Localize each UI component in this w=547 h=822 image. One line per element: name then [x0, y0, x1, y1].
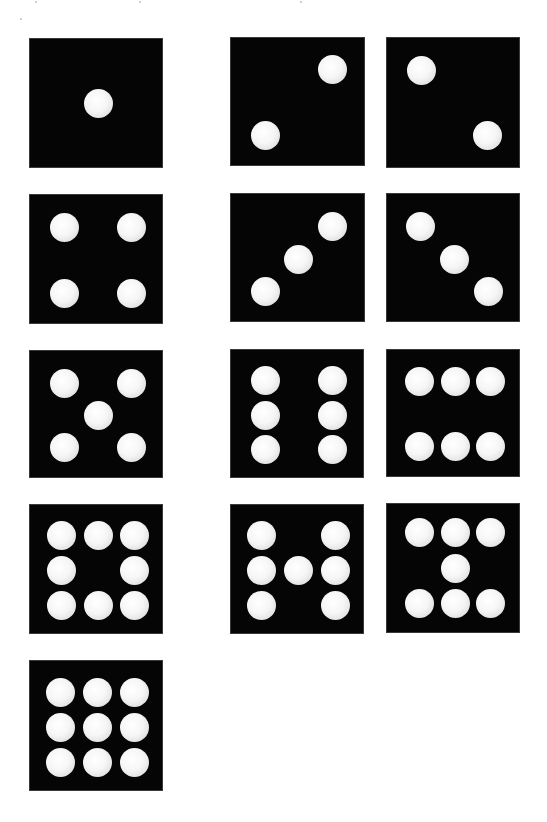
- pip-icon: [405, 518, 434, 547]
- die-face-5-quincunx: [29, 350, 163, 478]
- pip-icon: [476, 367, 505, 396]
- pip-icon: [50, 433, 79, 462]
- pip-icon: [473, 121, 502, 150]
- die-face-2-diagonal-rising: [230, 37, 365, 166]
- pip-icon: [476, 518, 505, 547]
- pip-icon: [321, 591, 350, 620]
- pip-icon: [84, 521, 113, 550]
- pip-icon: [50, 213, 79, 242]
- pip-icon: [476, 589, 505, 618]
- pip-icon: [440, 245, 469, 274]
- pip-icon: [405, 589, 434, 618]
- die-face-7-H-shape: [230, 504, 364, 634]
- pip-icon: [318, 401, 347, 430]
- pip-icon: [120, 556, 149, 585]
- pip-icon: [50, 279, 79, 308]
- pip-icon: [284, 556, 313, 585]
- pip-icon: [84, 401, 113, 430]
- pip-icon: [117, 369, 146, 398]
- pip-icon: [46, 748, 75, 777]
- pip-icon: [441, 432, 470, 461]
- pip-icon: [406, 212, 435, 241]
- pip-icon: [318, 212, 347, 241]
- pip-icon: [251, 121, 280, 150]
- pip-icon: [117, 433, 146, 462]
- pip-icon: [321, 521, 350, 550]
- die-face-3-diagonal-rising: [230, 193, 365, 322]
- pip-icon: [321, 556, 350, 585]
- pip-icon: [47, 521, 76, 550]
- pip-icon: [474, 277, 503, 306]
- pip-icon: [247, 521, 276, 550]
- pip-icon: [441, 518, 470, 547]
- pip-icon: [120, 748, 149, 777]
- scan-speck: [300, 1, 302, 3]
- pip-icon: [441, 589, 470, 618]
- die-face-2-diagonal-falling: [386, 37, 520, 168]
- scan-speck: [35, 1, 37, 3]
- pip-icon: [83, 678, 112, 707]
- pip-icon: [247, 591, 276, 620]
- die-face-3-diagonal-falling: [386, 193, 520, 322]
- pip-icon: [47, 556, 76, 585]
- pip-icon: [407, 56, 436, 85]
- die-face-6-two-rows: [386, 349, 520, 477]
- pip-icon: [476, 432, 505, 461]
- scan-speck: [139, 1, 141, 3]
- die-face-4-corners: [29, 194, 163, 324]
- pip-icon: [117, 279, 146, 308]
- die-face-7-I-shape: [386, 503, 520, 633]
- pip-icon: [120, 678, 149, 707]
- pip-icon: [318, 55, 347, 84]
- pip-icon: [318, 366, 347, 395]
- pip-icon: [46, 713, 75, 742]
- pip-icon: [117, 213, 146, 242]
- pip-icon: [84, 591, 113, 620]
- pip-icon: [83, 713, 112, 742]
- pip-icon: [83, 748, 112, 777]
- pip-icon: [120, 591, 149, 620]
- pip-icon: [84, 89, 113, 118]
- pip-icon: [318, 435, 347, 464]
- pip-icon: [120, 521, 149, 550]
- pip-icon: [46, 678, 75, 707]
- pip-icon: [251, 435, 280, 464]
- pip-icon: [120, 713, 149, 742]
- pip-icon: [441, 367, 470, 396]
- pip-icon: [47, 591, 76, 620]
- pip-icon: [50, 369, 79, 398]
- scan-speck: [20, 18, 22, 20]
- pip-icon: [405, 367, 434, 396]
- pip-icon: [284, 245, 313, 274]
- die-face-1-center: [29, 38, 163, 168]
- die-face-9-grid-3x3: [29, 660, 163, 791]
- pip-icon: [251, 401, 280, 430]
- pip-icon: [247, 556, 276, 585]
- pip-icon: [251, 277, 280, 306]
- pip-icon: [441, 554, 470, 583]
- die-face-6-two-columns: [230, 349, 364, 478]
- pip-icon: [405, 432, 434, 461]
- die-face-8-ring: [29, 504, 163, 634]
- pip-icon: [251, 366, 280, 395]
